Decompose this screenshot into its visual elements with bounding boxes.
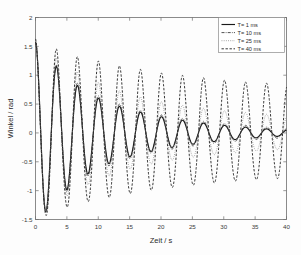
x-tick-label: 5 <box>65 223 69 230</box>
legend-label-3: T= 40 ms <box>238 46 262 52</box>
x-axis-label: Zeit / s <box>150 236 173 245</box>
legend-label-1: T= 10 ms <box>238 30 262 36</box>
legend-label-2: T= 25 ms <box>238 38 262 44</box>
y-axis-label: Winkel / rad <box>6 99 15 139</box>
series-line-1ms <box>36 42 287 211</box>
legend-label-0: T= 1 ms <box>238 22 259 28</box>
x-tick-label: 30 <box>220 223 227 230</box>
y-axis-tick-labels: -1.5-1-0.500.511.52 <box>22 14 33 223</box>
y-tick-label: 0 <box>29 129 33 136</box>
data-series-group <box>36 39 287 216</box>
x-tick-label: 40 <box>283 223 290 230</box>
x-axis-tick-labels: 0510152025303540 <box>34 223 291 230</box>
chart-legend: T= 1 msT= 10 msT= 25 msT= 40 ms <box>219 18 285 53</box>
y-tick-label: -1.5 <box>22 216 33 223</box>
x-tick-label: 10 <box>95 223 102 230</box>
chart-figure: 0510152025303540 -1.5-1-0.500.511.52 Zei… <box>0 0 301 255</box>
y-tick-label: 1.5 <box>24 43 33 50</box>
x-tick-label: 20 <box>158 223 165 230</box>
x-tick-label: 25 <box>189 223 196 230</box>
y-tick-label: -0.5 <box>22 158 33 165</box>
damped-oscillation-chart: 0510152025303540 -1.5-1-0.500.511.52 Zei… <box>0 0 301 255</box>
x-tick-label: 0 <box>34 223 38 230</box>
x-tick-label: 15 <box>126 223 133 230</box>
x-tick-label: 35 <box>252 223 259 230</box>
y-tick-label: 1 <box>29 71 33 78</box>
y-tick-label: 2 <box>29 14 33 21</box>
y-tick-label: 0.5 <box>24 100 33 107</box>
y-tick-label: -1 <box>27 187 33 194</box>
